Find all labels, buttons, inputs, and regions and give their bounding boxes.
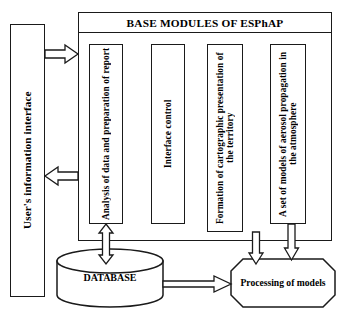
arrow-database-to-processing: [163, 276, 231, 292]
processing-of-models-label: Processing of models: [238, 266, 328, 300]
arrow-user-to-modules: [45, 45, 78, 63]
arrow-analysis-database-bidirectional: [99, 224, 113, 264]
arrow-modules-to-user: [45, 167, 78, 185]
database-label-wrap: DATABASE: [57, 263, 163, 293]
esphap-architecture-diagram: BASE MODULES OF ESPhAP User's informatio…: [0, 0, 349, 317]
arrow-aerosol-to-processing: [285, 224, 299, 260]
database-label: DATABASE: [57, 263, 163, 293]
processing-label-wrap: Processing of models: [238, 266, 328, 300]
